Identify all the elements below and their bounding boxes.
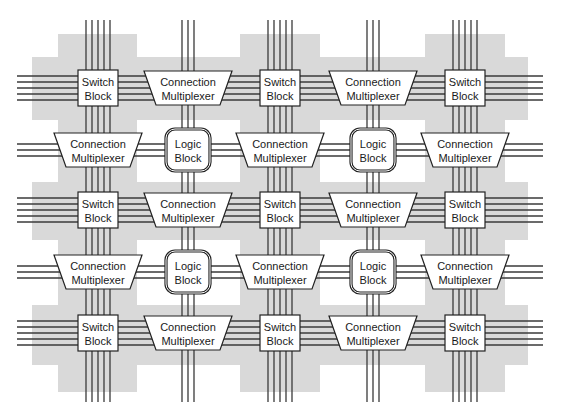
connection-multiplexer-label-line1: Connection xyxy=(437,138,493,150)
connection-multiplexer: ConnectionMultiplexer xyxy=(421,133,509,167)
connection-multiplexer: ConnectionMultiplexer xyxy=(144,71,232,105)
connection-multiplexer: ConnectionMultiplexer xyxy=(421,255,509,289)
switch-block: SwitchBlock xyxy=(260,192,300,228)
connection-multiplexer-label-line1: Connection xyxy=(70,138,126,150)
connection-multiplexer-label-line2: Multiplexer xyxy=(71,274,125,286)
switch-block-label-line2: Block xyxy=(85,335,112,347)
connection-multiplexer-label-line2: Multiplexer xyxy=(346,90,400,102)
logic-block-label-line2: Block xyxy=(175,274,202,286)
fpga-routing-diagram: SwitchBlockConnectionMultiplexerSwitchBl… xyxy=(0,0,562,418)
switch-block-label-line1: Switch xyxy=(82,321,114,333)
logic-block: LogicBlock xyxy=(351,129,395,171)
switch-block-label-line1: Switch xyxy=(82,76,114,88)
switch-block-label-line1: Switch xyxy=(264,198,296,210)
switch-block: SwitchBlock xyxy=(78,70,118,106)
connection-multiplexer-label-line1: Connection xyxy=(252,138,308,150)
switch-block-label-line1: Switch xyxy=(449,76,481,88)
connection-multiplexer-label-line1: Connection xyxy=(345,321,401,333)
switch-block-label-line2: Block xyxy=(452,90,479,102)
connection-multiplexer-label-line2: Multiplexer xyxy=(253,152,307,164)
switch-block: SwitchBlock xyxy=(78,315,118,351)
connection-multiplexer-label-line1: Connection xyxy=(345,198,401,210)
connection-multiplexer: ConnectionMultiplexer xyxy=(236,133,324,167)
connection-multiplexer-label-line1: Connection xyxy=(70,260,126,272)
connection-multiplexer: ConnectionMultiplexer xyxy=(54,133,142,167)
connection-multiplexer-label-line2: Multiplexer xyxy=(346,335,400,347)
switch-block: SwitchBlock xyxy=(445,192,485,228)
switch-block: SwitchBlock xyxy=(78,192,118,228)
logic-block-label-line2: Block xyxy=(360,274,387,286)
switch-block: SwitchBlock xyxy=(260,70,300,106)
connection-multiplexer-label-line2: Multiplexer xyxy=(438,274,492,286)
connection-multiplexer-label-line1: Connection xyxy=(437,260,493,272)
connection-multiplexer: ConnectionMultiplexer xyxy=(329,71,417,105)
logic-block: LogicBlock xyxy=(166,129,210,171)
switch-block-label-line1: Switch xyxy=(449,198,481,210)
switch-block-label-line2: Block xyxy=(85,90,112,102)
logic-block-label-line2: Block xyxy=(360,152,387,164)
connection-multiplexer: ConnectionMultiplexer xyxy=(144,316,232,350)
connection-multiplexer-label-line2: Multiplexer xyxy=(438,152,492,164)
connection-multiplexer: ConnectionMultiplexer xyxy=(329,316,417,350)
switch-block-label-line1: Switch xyxy=(449,321,481,333)
switch-block: SwitchBlock xyxy=(445,315,485,351)
connection-multiplexer: ConnectionMultiplexer xyxy=(329,193,417,227)
logic-block-label-line1: Logic xyxy=(175,138,202,150)
connection-multiplexer: ConnectionMultiplexer xyxy=(144,193,232,227)
switch-block-label-line1: Switch xyxy=(264,321,296,333)
switch-block-label-line2: Block xyxy=(85,212,112,224)
connection-multiplexer-label-line2: Multiplexer xyxy=(161,90,215,102)
connection-multiplexer-label-line2: Multiplexer xyxy=(346,212,400,224)
connection-multiplexer-label-line2: Multiplexer xyxy=(161,335,215,347)
connection-multiplexer-label-line2: Multiplexer xyxy=(161,212,215,224)
logic-block: LogicBlock xyxy=(166,251,210,293)
connection-multiplexer-label-line1: Connection xyxy=(160,76,216,88)
switch-block-label-line2: Block xyxy=(452,212,479,224)
switch-block-label-line1: Switch xyxy=(82,198,114,210)
connection-multiplexer: ConnectionMultiplexer xyxy=(54,255,142,289)
connection-multiplexer-label-line2: Multiplexer xyxy=(253,274,307,286)
logic-block-label-line1: Logic xyxy=(360,260,387,272)
switch-block: SwitchBlock xyxy=(445,70,485,106)
connection-multiplexer-label-line1: Connection xyxy=(160,321,216,333)
logic-block-label-line2: Block xyxy=(175,152,202,164)
switch-block-label-line1: Switch xyxy=(264,76,296,88)
connection-multiplexer-label-line1: Connection xyxy=(252,260,308,272)
switch-block-label-line2: Block xyxy=(452,335,479,347)
connection-multiplexer-label-line1: Connection xyxy=(345,76,401,88)
switch-block-label-line2: Block xyxy=(267,212,294,224)
connection-multiplexer: ConnectionMultiplexer xyxy=(236,255,324,289)
switch-block: SwitchBlock xyxy=(260,315,300,351)
switch-block-label-line2: Block xyxy=(267,335,294,347)
connection-multiplexer-label-line2: Multiplexer xyxy=(71,152,125,164)
logic-block-label-line1: Logic xyxy=(175,260,202,272)
logic-block: LogicBlock xyxy=(351,251,395,293)
connection-multiplexer-label-line1: Connection xyxy=(160,198,216,210)
switch-block-label-line2: Block xyxy=(267,90,294,102)
logic-block-label-line1: Logic xyxy=(360,138,387,150)
